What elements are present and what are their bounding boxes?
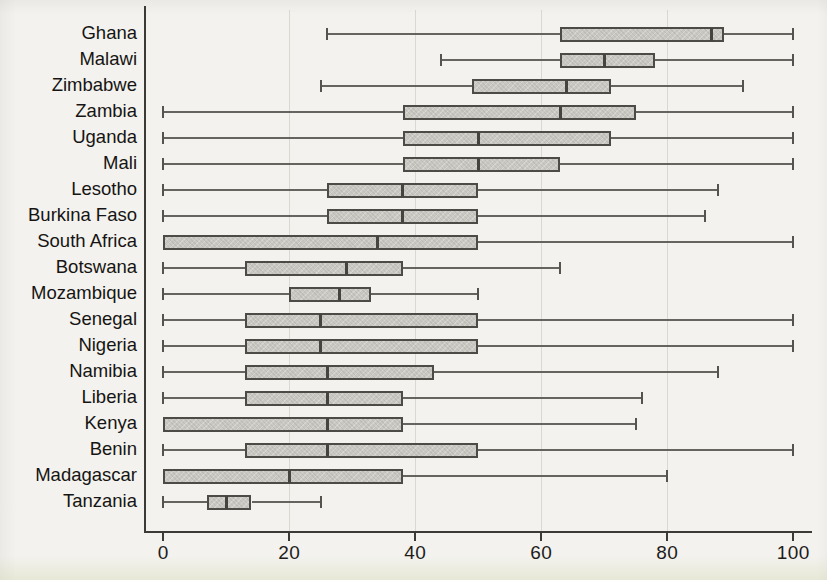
x-tick-label: 80 bbox=[656, 542, 678, 564]
iqr-box bbox=[163, 235, 478, 250]
upper-whisker-line bbox=[403, 267, 561, 269]
median-line bbox=[326, 418, 329, 431]
lower-whisker-line bbox=[163, 267, 245, 269]
category-label: Mozambique bbox=[31, 282, 137, 304]
x-tick bbox=[414, 533, 416, 541]
upper-whisker-cap bbox=[792, 54, 794, 66]
upper-whisker-line bbox=[478, 319, 793, 321]
category-label: Nigeria bbox=[78, 334, 137, 356]
upper-whisker-line bbox=[403, 475, 668, 477]
median-line bbox=[710, 28, 713, 41]
x-tick-label: 100 bbox=[777, 542, 810, 564]
iqr-box bbox=[245, 443, 478, 458]
iqr-box bbox=[560, 53, 655, 68]
median-line bbox=[477, 132, 480, 145]
iqr-box bbox=[163, 417, 402, 432]
upper-whisker-cap bbox=[792, 158, 794, 170]
iqr-box bbox=[560, 27, 724, 42]
upper-whisker-cap bbox=[477, 288, 479, 300]
median-line bbox=[401, 184, 404, 197]
upper-whisker-cap bbox=[635, 418, 637, 430]
category-label: Liberia bbox=[81, 386, 137, 408]
upper-whisker-cap bbox=[742, 80, 744, 92]
lower-whisker-cap bbox=[162, 210, 164, 222]
category-label: Senegal bbox=[69, 308, 137, 330]
category-label: Botswana bbox=[56, 256, 137, 278]
lower-whisker-cap bbox=[162, 288, 164, 300]
category-label: Zambia bbox=[75, 100, 137, 122]
x-tick bbox=[162, 533, 164, 541]
category-label: Kenya bbox=[85, 412, 137, 434]
median-line bbox=[326, 366, 329, 379]
x-tick-label: 40 bbox=[404, 542, 426, 564]
iqr-box bbox=[472, 79, 611, 94]
iqr-box bbox=[163, 469, 402, 484]
x-tick-label: 60 bbox=[530, 542, 552, 564]
iqr-box bbox=[403, 105, 636, 120]
upper-whisker-line bbox=[611, 85, 743, 87]
median-line bbox=[376, 236, 379, 249]
median-line bbox=[326, 444, 329, 457]
upper-whisker-line bbox=[560, 163, 793, 165]
boxplot-figure: GhanaMalawiZimbabweZambiaUgandaMaliLesot… bbox=[0, 0, 827, 580]
category-label: Ghana bbox=[81, 22, 137, 44]
upper-whisker-line bbox=[403, 397, 642, 399]
upper-whisker-cap bbox=[704, 210, 706, 222]
iqr-box bbox=[207, 495, 251, 510]
category-label: Mali bbox=[103, 152, 137, 174]
iqr-box bbox=[245, 391, 403, 406]
upper-whisker-cap bbox=[792, 444, 794, 456]
upper-whisker-cap bbox=[792, 314, 794, 326]
median-line bbox=[401, 210, 404, 223]
iqr-box bbox=[289, 287, 371, 302]
lower-whisker-line bbox=[163, 293, 289, 295]
lower-whisker-cap bbox=[162, 340, 164, 352]
lower-whisker-line bbox=[163, 345, 245, 347]
lower-whisker-line bbox=[163, 371, 245, 373]
lower-whisker-cap bbox=[326, 28, 328, 40]
median-line bbox=[319, 314, 322, 327]
median-line bbox=[603, 54, 606, 67]
upper-whisker-line bbox=[478, 189, 717, 191]
lower-whisker-line bbox=[163, 501, 207, 503]
x-axis-line bbox=[144, 531, 812, 533]
category-label: South Africa bbox=[37, 230, 137, 252]
upper-whisker-cap bbox=[666, 470, 668, 482]
category-label: Uganda bbox=[72, 126, 137, 148]
category-label: Madagascar bbox=[35, 464, 137, 486]
lower-whisker-cap bbox=[162, 158, 164, 170]
upper-whisker-line bbox=[371, 293, 478, 295]
category-label: Burkina Faso bbox=[28, 204, 137, 226]
upper-whisker-cap bbox=[792, 132, 794, 144]
median-line bbox=[338, 288, 341, 301]
lower-whisker-cap bbox=[162, 184, 164, 196]
upper-whisker-line bbox=[403, 423, 636, 425]
category-label: Malawi bbox=[79, 48, 137, 70]
y-axis-line bbox=[144, 6, 146, 533]
lower-whisker-cap bbox=[162, 496, 164, 508]
upper-whisker-line bbox=[611, 137, 794, 139]
x-tick-label: 20 bbox=[278, 542, 300, 564]
lower-whisker-line bbox=[163, 137, 402, 139]
lower-whisker-line bbox=[327, 33, 560, 35]
lower-whisker-cap bbox=[320, 80, 322, 92]
category-label: Zimbabwe bbox=[52, 74, 137, 96]
upper-whisker-line bbox=[478, 215, 705, 217]
lower-whisker-line bbox=[163, 397, 245, 399]
lower-whisker-line bbox=[321, 85, 472, 87]
median-line bbox=[288, 470, 291, 483]
median-line bbox=[565, 80, 568, 93]
lower-whisker-line bbox=[441, 59, 561, 61]
upper-whisker-cap bbox=[792, 28, 794, 40]
category-label: Lesotho bbox=[71, 178, 137, 200]
upper-whisker-cap bbox=[641, 392, 643, 404]
upper-whisker-cap bbox=[717, 366, 719, 378]
upper-whisker-line bbox=[478, 345, 793, 347]
lower-whisker-cap bbox=[162, 132, 164, 144]
median-line bbox=[225, 496, 228, 509]
lower-whisker-line bbox=[163, 111, 402, 113]
iqr-box bbox=[403, 131, 611, 146]
lower-whisker-cap bbox=[162, 106, 164, 118]
lower-whisker-line bbox=[163, 189, 327, 191]
upper-whisker-line bbox=[724, 33, 793, 35]
